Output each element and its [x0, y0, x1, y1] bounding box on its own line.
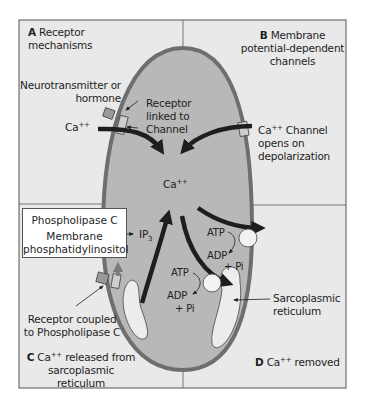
receptor-linked-label: Receptor linked to Channel — [146, 97, 191, 136]
quadrant-d-ion: Ca — [267, 356, 280, 368]
ca-channel-label: Ca++ Channel opens on depolarization — [258, 124, 330, 163]
ca-channel-ion: Ca — [258, 124, 271, 136]
sarcoplasmic-line1: Sarcoplasmic — [273, 292, 340, 304]
quadrant-b-title: B Membrane potential-dependent channels — [240, 29, 345, 68]
quadrant-d-title: D Ca++ removed — [255, 356, 340, 369]
receptor-coupled-line2: to Phospholipase C — [24, 326, 120, 338]
quadrant-c-letter: C — [27, 351, 35, 363]
quadrant-c-line3: reticulum — [57, 377, 105, 389]
quadrant-b-letter: B — [260, 29, 268, 41]
neurotransmitter-line1: Neurotransmitter or — [20, 79, 121, 91]
pump-right-pi: + Pi — [224, 260, 243, 273]
receptor-linked-line3: Channel — [146, 123, 188, 135]
voltage-channel-right — [238, 121, 249, 136]
ca-outside-charge: ++ — [78, 121, 89, 129]
ca-center-charge: ++ — [176, 178, 187, 186]
quadrant-c-ion: Ca — [37, 351, 50, 363]
ca-channel-line2: opens on — [258, 137, 305, 149]
pump-inner-atp: ATP — [171, 266, 189, 279]
phospholipase-box: Phospholipase C Membrane phosphatidylino… — [22, 208, 127, 258]
quadrant-c-rest: released from — [65, 351, 135, 363]
ip3-label: IP3 — [139, 228, 152, 246]
pump-membrane — [239, 229, 257, 247]
quadrant-a-line1: Receptor — [39, 26, 84, 38]
receptor-coupled-label: Receptor coupled to Phospholipase C — [22, 313, 122, 339]
phosphatidylinositol-label: phosphatidylinositol — [23, 243, 129, 255]
sarcoplasmic-label: Sarcoplasmic reticulum — [273, 292, 340, 318]
quadrant-b-line1: Membrane — [271, 29, 326, 41]
neurotransmitter-label: Neurotransmitter or hormone — [20, 79, 121, 105]
receptor-coupled-line1: Receptor coupled — [28, 313, 117, 325]
quadrant-c-line2: sarcoplasmic — [48, 364, 114, 376]
ca-channel-charge: ++ — [271, 124, 282, 132]
quadrant-c-title: C Ca++ released from sarcoplasmic reticu… — [22, 351, 140, 390]
pump-right-atp: ATP — [207, 226, 225, 239]
membrane-label: Membrane — [46, 230, 102, 242]
sarcoplasmic-line2: reticulum — [273, 305, 321, 317]
quadrant-a-line2: mechanisms — [28, 39, 92, 51]
quadrant-a-title: A Receptor mechanisms — [28, 26, 92, 52]
quadrant-d-letter: D — [255, 356, 264, 368]
ca-channel-rest: Channel — [286, 124, 328, 136]
ip3-base: IP — [139, 228, 148, 240]
ca-channel-line3: depolarization — [258, 150, 330, 162]
pump-inner-pi: + Pi — [175, 302, 194, 315]
pump-inner-adp: ADP — [167, 289, 187, 302]
quadrant-c-charge: ++ — [51, 351, 62, 359]
ca-center-label: Ca++ — [163, 178, 188, 191]
quadrant-a-letter: A — [28, 26, 36, 38]
ip3-sub: 3 — [148, 235, 152, 243]
pump-sr — [203, 274, 221, 292]
quadrant-d-charge: ++ — [280, 356, 291, 364]
receptor-linked-line2: linked to — [146, 110, 189, 122]
ca-center-ion: Ca — [163, 178, 176, 190]
neurotransmitter-line2: hormone — [75, 92, 121, 104]
phospholipase-label: Phospholipase C — [23, 214, 126, 226]
receptor-linked-line1: Receptor — [146, 97, 191, 109]
quadrant-d-rest: removed — [295, 356, 340, 368]
ca-outside-label: Ca++ — [65, 121, 90, 134]
membrane-pi-label: Membrane phosphatidylinositol — [23, 230, 126, 256]
quadrant-b-line2: potential-dependent — [241, 42, 345, 54]
quadrant-b-line3: channels — [270, 55, 315, 67]
ca-outside-ion: Ca — [65, 121, 78, 133]
